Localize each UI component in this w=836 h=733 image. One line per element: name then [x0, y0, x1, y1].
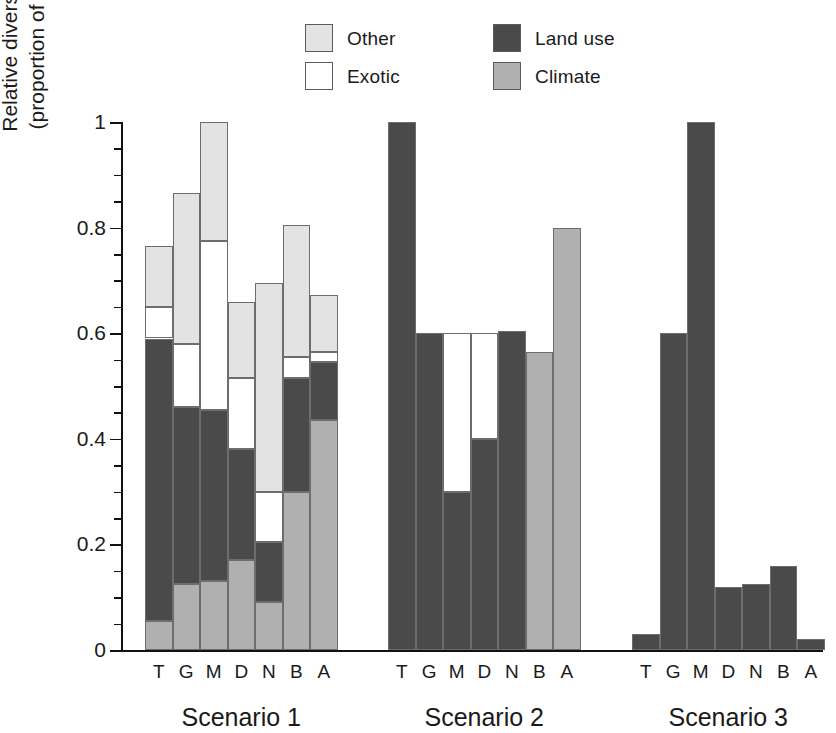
- stacked-bar: [255, 283, 283, 650]
- y-axis-major-tick: [110, 333, 121, 335]
- legend-swatch-other: [305, 24, 333, 52]
- legend-item-climate: Climate: [493, 62, 601, 90]
- bar-segment-exotic: [255, 492, 283, 542]
- y-axis-tick-label: 0.6: [77, 322, 106, 343]
- bar-segment-land-use: [388, 122, 416, 650]
- x-axis-tick-label: N: [505, 662, 519, 681]
- y-axis-tick-label: 0: [94, 639, 106, 660]
- x-axis-group-label: Scenario 1: [181, 705, 301, 730]
- bar-segment-climate: [553, 228, 581, 650]
- x-axis-tick-label: D: [721, 662, 735, 681]
- bar-segment-other: [145, 246, 173, 307]
- bar-segment-exotic: [283, 357, 311, 378]
- legend-item-exotic: Exotic: [305, 62, 400, 90]
- x-axis-line: [121, 650, 823, 652]
- y-axis-minor-tick: [114, 254, 121, 256]
- bar-segment-climate: [228, 560, 256, 650]
- y-axis-tick-label: 0.2: [77, 533, 106, 554]
- y-axis-tick-label: 0.8: [77, 217, 106, 238]
- figure-root: Other Exotic Land use Climate Relative d…: [0, 0, 836, 733]
- bar-segment-land-use: [310, 362, 338, 420]
- legend-swatch-land-use: [493, 24, 521, 52]
- y-axis-minor-tick: [114, 412, 121, 414]
- bar-segment-land-use: [283, 378, 311, 492]
- stacked-bar: [310, 295, 338, 650]
- bar-segment-climate: [255, 602, 283, 650]
- bar-segment-other: [200, 122, 228, 241]
- x-axis-tick-label: A: [804, 662, 817, 681]
- y-axis-tick-label: 1: [94, 111, 106, 132]
- x-axis-tick-label: D: [234, 662, 248, 681]
- y-axis-minor-tick: [114, 518, 121, 520]
- bar-segment-exotic: [200, 241, 228, 410]
- y-axis-title-line1: Relative diversity change: [0, 0, 23, 150]
- y-axis-major-tick: [110, 228, 121, 230]
- plot-area: 00.20.40.60.81 TGMDNBATGMDNBATGMDNBA Sce…: [122, 122, 822, 650]
- x-axis-group-label: Scenario 3: [668, 705, 788, 730]
- bar-segment-land-use: [255, 542, 283, 603]
- bar-segment-climate: [283, 492, 311, 650]
- bar-segment-land-use: [443, 492, 471, 650]
- bar-segment-climate: [310, 420, 338, 650]
- stacked-bar: [632, 634, 660, 650]
- y-axis-major-tick: [110, 439, 121, 441]
- x-axis-tick-label: B: [290, 662, 303, 681]
- bar-segment-land-use: [145, 339, 173, 621]
- stacked-bar: [797, 639, 825, 650]
- stacked-bar: [660, 333, 688, 650]
- stacked-bar: [471, 333, 499, 650]
- stacked-bar: [526, 352, 554, 650]
- bar-segment-exotic: [228, 378, 256, 449]
- bar-segment-other: [173, 193, 201, 343]
- stacked-bar: [388, 122, 416, 650]
- legend-label-land-use: Land use: [535, 29, 615, 48]
- legend-item-land-use: Land use: [493, 24, 615, 52]
- y-axis-line: [121, 122, 123, 651]
- x-axis-tick-label: T: [396, 662, 408, 681]
- y-axis-minor-tick: [114, 175, 121, 177]
- stacked-bar: [770, 566, 798, 650]
- bar-segment-land-use: [200, 410, 228, 582]
- y-axis-minor-tick: [114, 201, 121, 203]
- stacked-bar: [228, 302, 256, 650]
- y-axis-minor-tick: [114, 571, 121, 573]
- x-axis-tick-label: N: [749, 662, 763, 681]
- bar-segment-land-use: [797, 639, 825, 650]
- stacked-bar: [283, 225, 311, 650]
- y-axis-tick-label: 0.4: [77, 428, 106, 449]
- stacked-bar: [498, 331, 526, 650]
- bar-segment-climate: [200, 581, 228, 650]
- x-axis-group-label: Scenario 2: [424, 705, 544, 730]
- bar-segment-land-use: [770, 566, 798, 650]
- y-axis-minor-tick: [114, 386, 121, 388]
- bar-segment-land-use: [660, 333, 688, 650]
- bar-segment-climate: [173, 584, 201, 650]
- bar-segment-land-use: [742, 584, 770, 650]
- stacked-bar: [687, 122, 715, 650]
- bar-segment-land-use: [687, 122, 715, 650]
- stacked-bar: [443, 333, 471, 650]
- y-axis-minor-tick: [114, 465, 121, 467]
- x-axis-tick-label: N: [262, 662, 276, 681]
- legend-item-other: Other: [305, 24, 396, 52]
- x-axis-tick-label: M: [449, 662, 465, 681]
- bar-segment-land-use: [228, 449, 256, 560]
- x-axis-tick-label: G: [179, 662, 194, 681]
- bar-segment-land-use: [632, 634, 660, 650]
- x-axis-tick-label: T: [153, 662, 165, 681]
- y-axis-minor-tick: [114, 280, 121, 282]
- y-axis-major-tick: [110, 544, 121, 546]
- legend-label-climate: Climate: [535, 67, 601, 86]
- x-axis-tick-label: G: [422, 662, 437, 681]
- x-axis-tick-label: A: [560, 662, 573, 681]
- y-axis-minor-tick: [114, 624, 121, 626]
- bar-segment-land-use: [498, 331, 526, 650]
- bar-segment-land-use: [416, 333, 444, 650]
- bar-segment-other: [283, 225, 311, 357]
- x-axis-tick-label: B: [533, 662, 546, 681]
- bar-segment-climate: [145, 621, 173, 650]
- bar-segment-other: [228, 302, 256, 379]
- bar-segment-exotic: [145, 307, 173, 339]
- bar-segment-land-use: [715, 587, 743, 650]
- x-axis-tick-label: A: [317, 662, 330, 681]
